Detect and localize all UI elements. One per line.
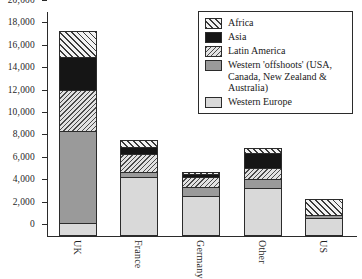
x-axis-label-uk: UK <box>72 240 83 255</box>
y-axis-tick-label: 18,000 <box>8 17 35 27</box>
legend-swatch-africa-icon <box>205 18 222 29</box>
bar-segment-westeurope <box>245 189 281 235</box>
bar-segment-africa <box>306 200 342 216</box>
legend-item-asia: Asia <box>205 31 347 43</box>
legend-item-western-offshoots: Western 'offshoots' (USA, Canada, New Ze… <box>205 59 347 94</box>
bar-segment-latinamerica <box>60 91 96 132</box>
bar-segment-westeurope <box>60 224 96 235</box>
bar-segment-latinamerica <box>245 169 281 180</box>
bar-segment-offshoots <box>183 188 219 197</box>
legend-label-latin-america: Latin America <box>228 45 285 57</box>
y-axis-tick-label: 2,000 <box>13 197 35 207</box>
x-axis-label-france: France <box>133 240 144 268</box>
bar-segment-asia <box>121 148 157 155</box>
y-axis-tick-label: 0 <box>30 219 35 229</box>
legend-swatch-western-offshoots-icon <box>205 60 222 71</box>
legend-label-asia: Asia <box>228 31 246 43</box>
y-axis-tick-label: 8,000 <box>13 129 35 139</box>
y-axis-tick-label: 10,000 <box>8 107 35 117</box>
legend-item-africa: Africa <box>205 17 347 29</box>
y-axis-tick-label: 4,000 <box>13 174 35 184</box>
x-axis-label-germany: Germany <box>195 240 206 279</box>
x-axis-label-other: Other <box>257 240 268 264</box>
bar-segment-latinamerica <box>183 178 219 189</box>
bar-segment-africa <box>121 141 157 149</box>
legend-swatch-latin-america-icon <box>205 46 222 57</box>
x-axis-line <box>47 236 357 237</box>
bar-us[interactable] <box>305 199 343 236</box>
bar-france[interactable] <box>120 140 158 236</box>
bar-segment-latinamerica <box>121 155 157 173</box>
bar-segment-asia <box>60 58 96 91</box>
bar-segment-westeurope <box>183 197 219 235</box>
bar-uk[interactable] <box>59 31 97 236</box>
y-axis-tick-label: 20,000 <box>8 0 35 5</box>
bar-other[interactable] <box>244 148 282 236</box>
legend-label-western-europe: Western Europe <box>228 96 292 108</box>
y-axis-tick: 20,000 <box>42 0 47 1</box>
legend-item-latin-america: Latin America <box>205 45 347 57</box>
legend-item-western-europe: Western Europe <box>205 96 347 108</box>
legend-swatch-asia-icon <box>205 32 222 43</box>
legend-label-western-offshoots: Western 'offshoots' (USA, Canada, New Ze… <box>228 59 347 94</box>
x-axis-label-us: US <box>318 240 329 253</box>
chart-legend: Africa Asia Latin America Western 'offsh… <box>198 11 353 114</box>
y-axis-tick-label: 14,000 <box>8 62 35 72</box>
y-axis-tick-label: 16,000 <box>8 40 35 50</box>
legend-swatch-western-europe-icon <box>205 97 222 108</box>
bar-segment-africa <box>60 32 96 58</box>
bar-segment-westeurope <box>306 219 342 235</box>
bar-segment-offshoots <box>60 132 96 224</box>
bar-segment-offshoots <box>245 180 281 189</box>
bar-segment-asia <box>245 154 281 169</box>
y-axis-tick-label: 12,000 <box>8 85 35 95</box>
bar-segment-westeurope <box>121 178 157 235</box>
y-axis-tick-label: 6,000 <box>13 152 35 162</box>
legend-label-africa: Africa <box>228 17 254 29</box>
bar-germany[interactable] <box>182 172 220 236</box>
